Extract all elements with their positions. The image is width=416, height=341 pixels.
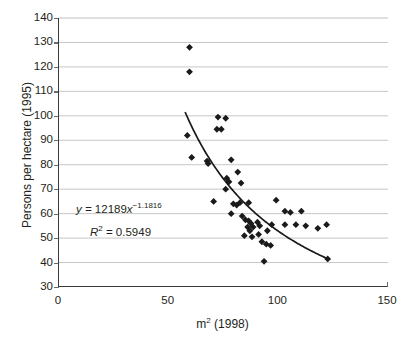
data-point <box>324 255 331 262</box>
data-point <box>249 233 256 240</box>
trendline <box>185 112 328 259</box>
data-point <box>186 44 193 51</box>
y-tick-label: 40 <box>0 257 53 269</box>
data-point <box>210 198 217 205</box>
data-point <box>282 221 289 228</box>
trendline-annotation: y = 12189x−1.1816 R2 = 0.5949 <box>76 196 162 242</box>
y-tick-mark <box>54 287 59 288</box>
data-point <box>292 221 299 228</box>
data-point <box>264 227 271 234</box>
data-point <box>323 221 330 228</box>
data-point <box>188 154 195 161</box>
data-point <box>218 126 225 133</box>
y-tick-label: 140 <box>0 12 53 24</box>
data-point <box>228 210 235 217</box>
r-squared-value: R2 = 0.5949 <box>90 219 162 242</box>
data-point <box>228 156 235 163</box>
data-point <box>314 225 321 232</box>
data-point <box>222 186 229 193</box>
data-point <box>273 197 280 204</box>
data-point <box>186 68 193 75</box>
data-point <box>302 222 309 229</box>
y-tick-label: 30 <box>0 281 53 293</box>
data-point <box>261 258 268 265</box>
data-point <box>215 114 222 121</box>
x-axis-title: m2 (1998) <box>58 316 387 331</box>
trendline-path <box>185 112 328 259</box>
x-tick-label: 100 <box>257 295 297 307</box>
data-point <box>287 209 294 216</box>
plot-canvas <box>59 18 388 287</box>
y-tick-label: 130 <box>0 36 53 48</box>
data-point <box>268 221 275 228</box>
x-tick-label: 150 <box>367 295 407 307</box>
data-point <box>234 169 241 176</box>
data-point <box>255 231 262 238</box>
regression-equation: y = 12189x−1.1816 <box>76 196 162 219</box>
x-tick-label: 50 <box>148 295 188 307</box>
x-tick-label: 0 <box>38 295 78 307</box>
chart-figure: 30405060708090100110120130140 050100150 … <box>0 0 416 341</box>
data-point <box>184 132 191 139</box>
plot-area <box>58 18 387 287</box>
y-axis-title: Persons per hectare (1995) <box>20 55 34 255</box>
data-point <box>238 180 245 187</box>
